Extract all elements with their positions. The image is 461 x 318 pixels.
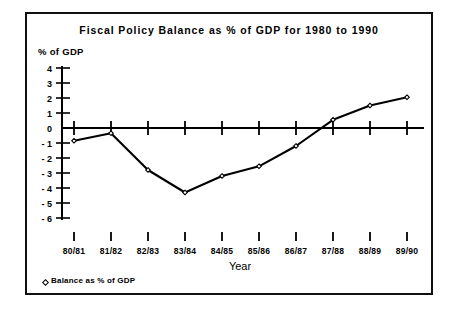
- xtick-label: 87/88: [322, 246, 344, 256]
- ytick-label: 0: [47, 124, 52, 134]
- data-point-marker: [72, 138, 77, 143]
- xtick-label: 80/81: [63, 246, 85, 256]
- x-axis-ticks-bottom: [74, 232, 407, 241]
- chart-plot-area: 4 3 2 1 0 - 1 - 2 - 3 - 4 - 5 - 6: [0, 0, 461, 318]
- ytick-label: - 5: [41, 199, 52, 209]
- legend-label: Balance as % of GDP: [51, 276, 135, 285]
- x-axis-caption: Year: [229, 260, 252, 272]
- xtick-label: 81/82: [100, 246, 122, 256]
- figure-container: Fiscal Policy Balance as % of GDP for 19…: [0, 0, 461, 318]
- ytick-label: 1: [47, 109, 52, 119]
- ytick-label: - 6: [41, 214, 52, 224]
- xtick-label: 84/85: [211, 246, 233, 256]
- ytick-label: 3: [47, 79, 52, 89]
- ytick-label: 4: [47, 64, 52, 74]
- xtick-label: 82/83: [137, 246, 159, 256]
- xtick-label: 89/90: [396, 246, 418, 256]
- ytick-label: - 1: [41, 139, 52, 149]
- series-line-balance: [74, 97, 407, 192]
- ytick-label: - 4: [41, 184, 52, 194]
- ytick-label: - 3: [41, 169, 52, 179]
- xtick-label: 86/87: [285, 246, 307, 256]
- xtick-label: 83/84: [174, 246, 196, 256]
- xtick-label: 85/86: [248, 246, 270, 256]
- ytick-label: 2: [47, 94, 52, 104]
- ytick-label: - 2: [41, 154, 52, 164]
- data-point-marker: [405, 95, 410, 100]
- xtick-label: 88/89: [359, 246, 381, 256]
